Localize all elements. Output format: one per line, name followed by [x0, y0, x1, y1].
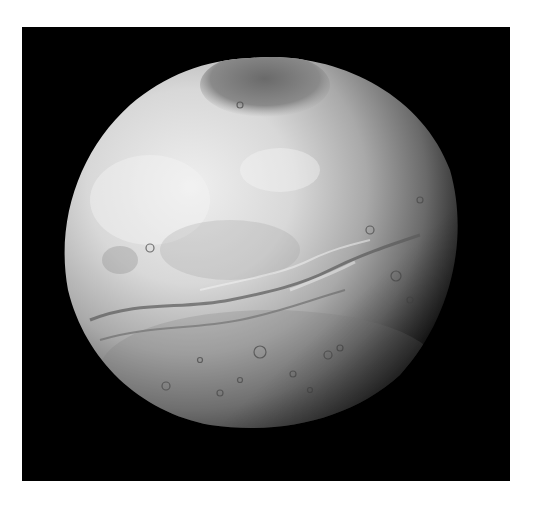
space-background [22, 27, 510, 481]
moon-image [22, 27, 510, 481]
